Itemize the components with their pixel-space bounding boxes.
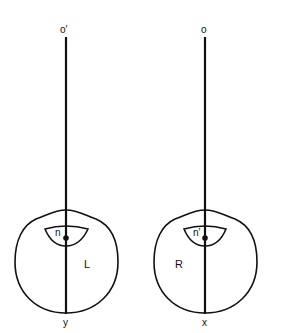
right-nodal-point [202,235,208,241]
left-top-label: o′ [60,24,68,35]
left-nodal-label: n [55,227,61,238]
right-top-label: o [201,24,207,35]
left-nodal-point [63,235,69,241]
right-eye-group: o n′ R x [154,24,257,328]
left-eye-label: L [84,258,90,270]
left-eye-group: o′ n L y [15,24,118,328]
right-bottom-label: x [202,317,207,328]
right-nodal-label: n′ [193,227,201,238]
binocular-eyes-diagram: o′ n L y o n′ R x [0,0,283,333]
left-bottom-label: y [63,317,68,328]
right-eye-label: R [175,258,183,270]
